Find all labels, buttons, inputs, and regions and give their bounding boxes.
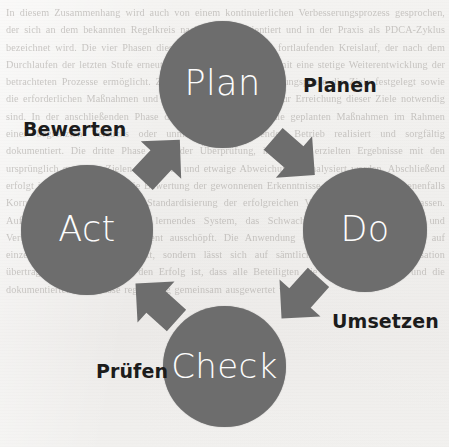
label-umsetzen: Umsetzen [332, 312, 439, 331]
node-check[interactable]: Check [163, 306, 286, 427]
node-do[interactable]: Do [303, 168, 427, 292]
node-plan-label: Plan [184, 66, 260, 101]
pdca-diagram-page: In diesem Zusammenhang wird auch von ein… [0, 0, 449, 447]
node-check-label: Check [171, 349, 278, 383]
node-plan[interactable]: Plan [159, 21, 286, 148]
label-bewerten: Bewerten [23, 120, 126, 139]
node-do-label: Do [340, 212, 389, 247]
pdca-cycle-diagram: Plan Do Check Act [0, 0, 449, 447]
label-planen: Planen [303, 76, 377, 95]
label-pruefen: Prüfen [96, 362, 168, 381]
node-act[interactable]: Act [21, 165, 153, 295]
node-act-label: Act [58, 212, 116, 247]
